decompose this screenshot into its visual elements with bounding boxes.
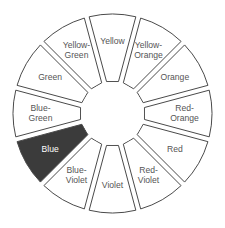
segment-label-line: Green xyxy=(65,50,89,60)
segment-label-line: Orange xyxy=(170,113,199,123)
segment-label: Blue-Violet xyxy=(66,165,88,185)
segment-label-line: Yellow- xyxy=(63,40,91,50)
center-hole xyxy=(81,82,144,145)
segment-label-line: Green xyxy=(38,72,62,82)
segment-label-line: Violet xyxy=(138,175,160,185)
segment-label: Yellow-Green xyxy=(63,40,91,60)
segment-label: Orange xyxy=(161,72,190,82)
segment-label-line: Green xyxy=(29,113,53,123)
segment-label-line: Yellow xyxy=(100,36,125,46)
segment-label: Violet xyxy=(102,180,124,190)
segment-label-line: Orange xyxy=(134,50,163,60)
segment-label-line: Orange xyxy=(161,72,190,82)
segment-label-line: Red- xyxy=(175,103,194,113)
segment-label-line: Blue- xyxy=(66,165,86,175)
segment-label-line: Blue- xyxy=(30,103,50,113)
segment-label-line: Red xyxy=(167,144,183,154)
segment-label-line: Red- xyxy=(139,165,158,175)
segment-label: Red-Violet xyxy=(138,165,160,185)
segment-label-line: Violet xyxy=(66,175,88,185)
segment-label-line: Violet xyxy=(102,180,124,190)
segment-label-line: Yellow- xyxy=(135,40,163,50)
segment-label: Blue-Green xyxy=(29,103,53,123)
segment-label: Blue xyxy=(42,144,59,154)
color-wheel: YellowYellow-OrangeOrangeRed-OrangeRedRe… xyxy=(0,0,225,228)
segment-label: Yellow-Orange xyxy=(134,40,163,60)
segment-label: Yellow xyxy=(100,36,125,46)
segment-label: Green xyxy=(38,72,62,82)
segment-label: Red xyxy=(167,144,183,154)
segment-label-line: Blue xyxy=(42,144,59,154)
